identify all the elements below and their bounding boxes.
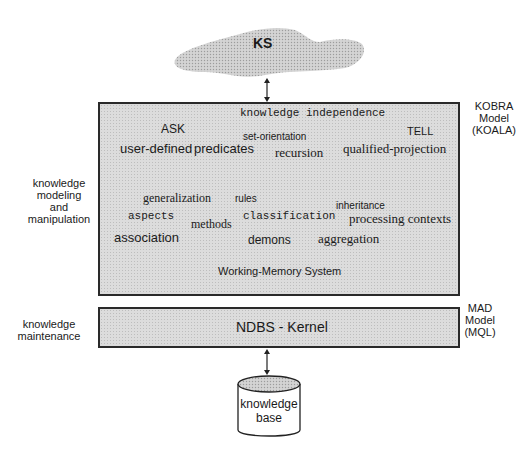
term-association: association — [114, 230, 179, 245]
term-demons: demons — [248, 233, 291, 247]
term-aggregation: aggregation — [318, 231, 379, 247]
term-processing-contexts: processing contexts — [349, 211, 451, 227]
term-aspects: aspects — [128, 210, 174, 222]
term-classification: classification — [243, 210, 335, 222]
ndbs-kernel-label: NDBS - Kernel — [236, 319, 328, 335]
term-methods: methods — [191, 217, 232, 232]
double-arrow-icon — [262, 349, 272, 375]
term-inheritance: inheritance — [336, 200, 385, 211]
term-generalization: generalization — [143, 191, 211, 206]
term-tell: TELL — [407, 125, 433, 137]
ks-cloud-shape — [170, 20, 370, 82]
term-ask: ASK — [161, 122, 185, 136]
ks-label: KS — [253, 35, 272, 51]
term-user-defined: user-defined — [120, 141, 192, 156]
term-qualified-projection: qualified-projection — [343, 141, 446, 157]
knowledge-maintenance-label: knowledge maintenance — [6, 318, 92, 342]
term-predicates: predicates — [194, 141, 254, 156]
term-recursion: recursion — [275, 145, 323, 161]
term-knowledge-independence: knowledge independence — [240, 107, 385, 119]
term-working-memory-system: Working-Memory System — [218, 265, 341, 277]
database-label-line2: base — [236, 412, 302, 424]
mad-model-label: MAD Model (MQL) — [462, 302, 498, 338]
kobra-model-label: KOBRA Model (KOALA) — [466, 100, 522, 136]
knowledge-modeling-label: knowledge modeling and manipulation — [6, 177, 112, 225]
double-arrow-icon — [262, 78, 272, 102]
database-label-line1: knowledge — [236, 398, 302, 410]
term-rules: rules — [235, 193, 257, 204]
